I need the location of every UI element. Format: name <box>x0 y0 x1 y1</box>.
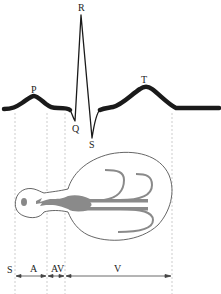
t-wave-label: T <box>141 74 147 85</box>
qrs-complex <box>70 15 100 138</box>
q-wave-label: Q <box>72 123 80 134</box>
arrowhead-icon <box>59 275 64 278</box>
ecg-trace <box>4 15 219 138</box>
atrium-label: A <box>30 263 38 274</box>
av-label: AV <box>51 263 65 274</box>
arrowhead-icon <box>48 275 53 278</box>
ecg-heart-diagram: R P Q S T S A AV V <box>0 0 221 294</box>
p-wave-segment <box>4 96 70 110</box>
arrowhead-icon <box>41 275 46 278</box>
sinus-node <box>21 198 27 206</box>
p-wave-label: P <box>31 84 37 95</box>
ventricle-label: V <box>114 263 122 274</box>
timing-arrows <box>16 275 171 278</box>
t-wave-segment <box>100 87 219 110</box>
arrowhead-icon <box>16 275 21 278</box>
sinus-label: S <box>7 264 13 275</box>
r-wave-label: R <box>78 2 85 13</box>
s-wave-label: S <box>89 139 95 150</box>
arrowhead-icon <box>66 275 71 278</box>
arrowhead-icon <box>165 275 171 278</box>
